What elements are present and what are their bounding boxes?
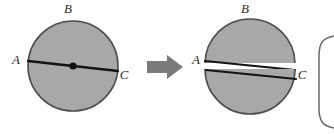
result-bracket-group	[319, 36, 334, 128]
left-label-C: C	[120, 67, 129, 82]
left-figure-group: B A C	[11, 1, 129, 111]
result-bracket-icon	[319, 36, 334, 128]
geometry-diagram: B A C B A C	[0, 0, 334, 134]
figure-canvas: B A C B A C	[0, 0, 334, 134]
arrow-right-icon	[147, 55, 183, 79]
right-label-C: C	[298, 67, 307, 82]
right-figure-group: B A C	[191, 1, 307, 114]
center-point-dot	[69, 62, 76, 69]
right-label-A: A	[191, 52, 200, 67]
left-label-A: A	[11, 52, 20, 67]
transformation-arrow-group	[147, 55, 183, 79]
right-label-B: B	[241, 1, 249, 16]
left-label-B: B	[64, 1, 72, 16]
